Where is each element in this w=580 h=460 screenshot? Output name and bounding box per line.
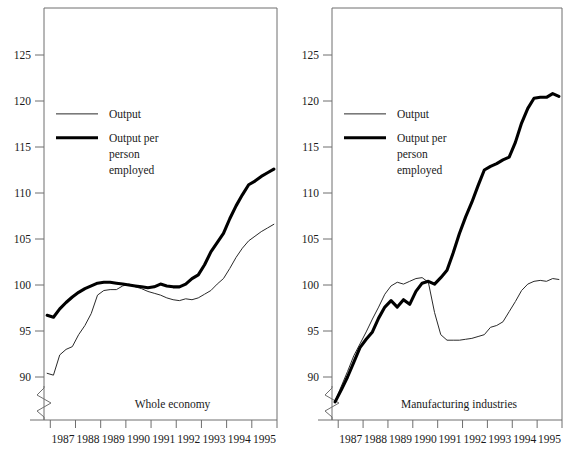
legend-label-output-per-person-employed-line2: person — [397, 148, 428, 161]
x-axis-tick-label: 1993 — [488, 433, 511, 445]
x-axis-tick-label: 1992 — [177, 433, 200, 445]
y-axis-tick-label: 125 — [302, 49, 320, 61]
x-axis-tick-label: 1991 — [152, 433, 175, 445]
x-axis-tick-label: 1989 — [102, 433, 125, 445]
y-axis-tick-label: 110 — [302, 187, 319, 199]
chart-svg-whole-economy: 9095100105110115120125198719881989199019… — [0, 0, 290, 460]
legend-label-output: Output — [109, 108, 142, 121]
legend-label-output-per-person-employed-line2: person — [109, 148, 140, 161]
series-line-output — [335, 278, 559, 401]
y-axis-tick-label: 90 — [20, 371, 32, 383]
y-axis-tick-label: 95 — [20, 325, 32, 337]
x-axis-tick-label: 1988 — [364, 433, 387, 445]
x-axis-tick-label: 1992 — [463, 433, 486, 445]
x-axis-tick-label: 1987 — [339, 433, 362, 445]
legend-label-output-per-person-employed-line1: Output per — [109, 132, 159, 145]
legend-label-output-per-person-employed-line3: employed — [397, 164, 443, 177]
chart-svg-manufacturing-industries: 9095100105110115120125198719881989199019… — [290, 0, 580, 460]
x-axis-tick-label: 1995 — [538, 433, 561, 445]
y-axis-tick-label: 110 — [14, 187, 31, 199]
y-axis-tick-label: 95 — [308, 325, 320, 337]
y-axis-tick-label: 105 — [302, 233, 320, 245]
y-axis-tick-label: 100 — [302, 279, 320, 291]
x-axis-tick-label: 1995 — [253, 433, 276, 445]
x-axis-tick-label: 1990 — [414, 433, 437, 445]
legend-label-output-per-person-employed-line1: Output per — [397, 132, 447, 145]
plot-frame — [332, 8, 562, 420]
panel-caption: Manufacturing industries — [401, 398, 517, 411]
x-axis-tick-label: 1988 — [77, 433, 100, 445]
x-axis-tick-label: 1991 — [439, 433, 462, 445]
figure-two-panel-line-charts: 9095100105110115120125198719881989199019… — [0, 0, 580, 460]
y-axis-tick-label: 105 — [14, 233, 32, 245]
series-line-output — [47, 224, 274, 375]
x-axis-tick-label: 1989 — [389, 433, 412, 445]
y-axis-tick-label: 115 — [302, 141, 319, 153]
x-axis-tick-label: 1990 — [127, 433, 150, 445]
series-line-output-per-person-employed — [335, 94, 559, 402]
y-axis-tick-label: 115 — [14, 141, 31, 153]
y-axis-tick-label: 120 — [14, 95, 32, 107]
legend-label-output: Output — [397, 108, 430, 121]
x-axis-tick-label: 1994 — [228, 433, 251, 445]
x-axis-tick-label: 1993 — [203, 433, 226, 445]
y-axis-tick-label: 90 — [308, 371, 320, 383]
y-axis-tick-label: 120 — [302, 95, 320, 107]
legend-label-output-per-person-employed-line3: employed — [109, 164, 155, 177]
plot-frame — [44, 8, 277, 420]
chart-panel-whole-economy: 9095100105110115120125198719881989199019… — [0, 0, 290, 460]
x-axis-tick-label: 1994 — [513, 433, 536, 445]
panel-caption: Whole economy — [135, 398, 211, 411]
x-axis-tick-label: 1987 — [51, 433, 74, 445]
chart-panel-manufacturing-industries: 9095100105110115120125198719881989199019… — [290, 0, 580, 460]
y-axis-tick-label: 125 — [14, 49, 32, 61]
y-axis-tick-label: 100 — [14, 279, 32, 291]
